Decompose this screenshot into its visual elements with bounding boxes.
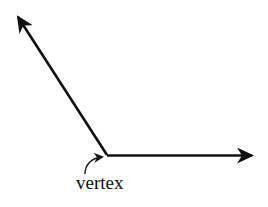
angle-diagram — [0, 0, 268, 207]
ray-upper-left — [18, 17, 107, 155]
vertex-label: vertex — [76, 173, 123, 192]
